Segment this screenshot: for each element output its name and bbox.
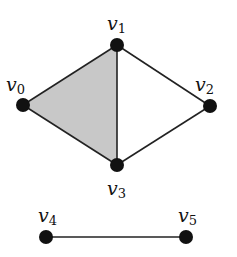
vertex-label-v1: v1 bbox=[107, 12, 126, 36]
vertex-label-v3: v3 bbox=[107, 177, 126, 201]
vertex-v3 bbox=[110, 158, 124, 172]
vertex-v5 bbox=[179, 230, 193, 244]
vertex-label-v2: v2 bbox=[195, 73, 214, 97]
vertex-v2 bbox=[203, 99, 217, 113]
vertex-v4 bbox=[39, 230, 53, 244]
face-v0-v1-v3 bbox=[23, 45, 117, 165]
vertex-label-v0: v0 bbox=[6, 73, 25, 97]
vertex-v0 bbox=[16, 98, 30, 112]
shaded-faces bbox=[23, 45, 117, 165]
edge-v2-v3 bbox=[117, 106, 210, 165]
vertex-v1 bbox=[110, 38, 124, 52]
vertex-label-v4: v4 bbox=[38, 204, 57, 228]
simplicial-complex-diagram: v0v1v2v3v4v5 bbox=[0, 0, 237, 257]
vertex-label-v5: v5 bbox=[178, 204, 197, 228]
